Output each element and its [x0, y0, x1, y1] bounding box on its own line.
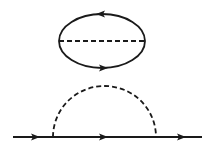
- self-energy-diagram: [13, 86, 202, 141]
- feynman-diagrams: [0, 0, 214, 153]
- dashed-arc: [53, 86, 156, 137]
- vacuum-bubble-diagram: [59, 11, 145, 72]
